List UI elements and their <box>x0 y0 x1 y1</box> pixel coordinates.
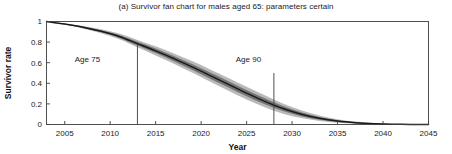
fan-band-outer <box>47 22 429 125</box>
fan-band-inner <box>47 22 429 125</box>
y-tick-label-1: 1 <box>38 17 43 26</box>
x-tick-label-2020: 2020 <box>192 129 210 138</box>
x-tick-label-2045: 2045 <box>420 129 438 138</box>
x-tick-label-2025: 2025 <box>238 129 256 138</box>
x-tick-label-2010: 2010 <box>101 129 119 138</box>
annotation-age-90: Age 90 <box>236 55 262 64</box>
chart-figure: (a) Survivor fan chart for males aged 65… <box>0 0 452 154</box>
x-tick-label-2005: 2005 <box>56 129 74 138</box>
y-tick-label-0.4: 0.4 <box>31 79 43 88</box>
x-tick-label-2030: 2030 <box>283 129 301 138</box>
survivor-fan-chart-plot: 20052010201520202025203020352040204500.2… <box>0 0 452 154</box>
y-tick-label-0: 0 <box>38 120 43 129</box>
x-tick-label-2040: 2040 <box>374 129 392 138</box>
plot-frame <box>47 22 429 125</box>
annotation-age-75: Age 75 <box>75 55 101 64</box>
y-tick-label-0.2: 0.2 <box>31 100 43 109</box>
y-tick-label-0.8: 0.8 <box>31 38 43 47</box>
y-axis-label: Survivor rate <box>3 47 13 100</box>
x-tick-label-2015: 2015 <box>147 129 165 138</box>
x-tick-label-2035: 2035 <box>329 129 347 138</box>
x-axis-label: Year <box>229 142 248 152</box>
y-tick-label-0.6: 0.6 <box>31 59 43 68</box>
median-survivor-line <box>47 22 429 125</box>
